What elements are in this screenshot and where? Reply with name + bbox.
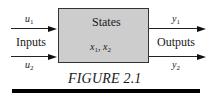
output-y1-subscript: 1 — [176, 18, 180, 26]
input-u2-arrow-icon — [48, 54, 57, 60]
output-y1-label: y1 — [172, 14, 180, 27]
output-y2-line — [149, 56, 199, 57]
output-y1-arrow-icon — [197, 26, 206, 32]
output-y2-label: y2 — [172, 60, 180, 73]
input-u1-line — [11, 28, 51, 29]
input-u1-label: u1 — [25, 14, 34, 27]
output-y1-line — [149, 28, 199, 29]
caption-rule — [12, 89, 200, 93]
output-y2-arrow-icon — [197, 54, 206, 60]
state-x2-subscript: 2 — [107, 46, 111, 54]
state-variables: x1, x2 — [90, 42, 111, 55]
outputs-label: Outputs — [157, 36, 195, 48]
input-u2-subscript: 2 — [30, 64, 34, 72]
input-u2-line — [11, 56, 51, 57]
output-y2-subscript: 2 — [176, 64, 180, 72]
input-u1-subscript: 1 — [30, 18, 34, 26]
states-title: States — [92, 16, 121, 28]
input-u2-label: u2 — [25, 60, 34, 73]
inputs-label: Inputs — [16, 36, 46, 48]
figure-caption: FIGURE 2.1 — [68, 72, 142, 86]
input-u1-arrow-icon — [48, 26, 57, 32]
